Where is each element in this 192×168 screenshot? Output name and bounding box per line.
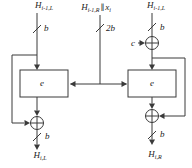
label-cipher-left: e — [40, 78, 44, 88]
right-output-wire — [149, 97, 155, 109]
label-input-left: Hi-1,L — [35, 1, 53, 11]
right-input-wire — [148, 13, 156, 37]
label-bus-width-right-top: b — [160, 22, 165, 32]
label-output-left-sub: i,L — [40, 155, 47, 161]
label-input-middle-x-sub: i — [109, 7, 111, 13]
label-output-left: Hi,L — [33, 151, 46, 161]
label-input-left-sub: i-1,L — [41, 5, 53, 11]
label-input-middle-h-sub: i-1,R — [88, 7, 100, 13]
diagram-geometry: b 2b b b b c e e — [0, 0, 192, 168]
label-constant-c: c — [131, 38, 135, 48]
key-input-wire — [70, 15, 127, 87]
arrowhead-left-feedforward-icon — [25, 120, 31, 126]
xor-right-input-symbol — [146, 37, 159, 50]
right-final-output-wire — [148, 123, 156, 146]
right-to-box-wire — [149, 50, 155, 71]
constant-c-wire — [138, 40, 145, 46]
arrowhead-right-box-to-xor-icon — [149, 104, 155, 110]
arrowhead-right-into-box-icon — [149, 65, 155, 71]
label-cipher-right: e — [150, 78, 154, 88]
arrowhead-key-into-left-box-icon — [70, 81, 76, 87]
arrowhead-key-into-right-box-icon — [122, 81, 128, 87]
xor-left-output-symbol — [31, 117, 44, 130]
label-bus-width-left-bottom: b — [45, 131, 50, 141]
label-bus-width-left-top: b — [44, 23, 49, 33]
block-cipher-left-box — [20, 70, 68, 97]
label-bus-width-right-bottom: b — [160, 129, 165, 139]
left-output-wire — [34, 97, 40, 116]
arrowhead-constant-c-icon — [140, 40, 146, 46]
arrowhead-left-box-to-xor-icon — [34, 111, 40, 117]
compression-function-diagram: b 2b b b b c e e Hi-1,L Hi-1,R∥xi Hi-1,L… — [0, 0, 192, 168]
label-output-right-sub: i,R — [155, 154, 162, 160]
label-input-right-sub: i-1,L — [153, 5, 165, 11]
left-final-output-wire — [33, 130, 41, 151]
arrowhead-left-input-icon — [34, 65, 40, 71]
label-output-right: Hi,R — [148, 150, 161, 160]
label-input-right: Hi-1,L — [147, 1, 165, 11]
label-bus-width-middle: 2b — [106, 23, 116, 33]
left-input-wire — [33, 13, 41, 70]
label-input-middle: Hi-1,R∥xi — [81, 3, 111, 13]
arrowhead-right-feedforward-icon — [159, 113, 165, 119]
xor-right-output-symbol — [146, 110, 159, 123]
arrowhead-right-final-icon — [149, 140, 155, 146]
